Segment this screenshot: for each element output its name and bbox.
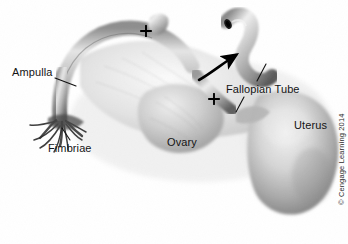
label-fimbriae: Fimbriae [48, 142, 92, 154]
copyright-notice: © Cengage Learning 2014 [338, 113, 346, 205]
label-fallopian-tube: Fallopian Tube [226, 83, 300, 95]
label-ovary: Ovary [167, 136, 197, 148]
anatomy-figure: Ampulla Fimbriae Ovary Fallopian Tube Ut… [0, 0, 348, 244]
label-uterus: Uterus [294, 119, 327, 131]
label-ampulla: Ampulla [12, 66, 52, 78]
